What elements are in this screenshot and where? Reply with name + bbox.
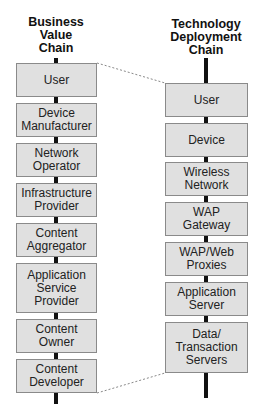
business-box-infrastructure-provider: Infrastructure Provider — [16, 183, 97, 217]
technology-box-application-server: Application Server — [165, 282, 248, 316]
technology-box-wap-gateway: WAP Gateway — [165, 202, 248, 236]
top-connector — [97, 63, 165, 83]
business-box-device-manufacturer: Device Manufacturer — [16, 103, 97, 137]
technology-box-user: User — [165, 83, 248, 117]
bottom-connector — [97, 373, 165, 393]
technology-box-device: Device — [165, 123, 248, 157]
business-box-network-operator: Network Operator — [16, 143, 97, 177]
business-box-content-aggregator: Content Aggregator — [16, 223, 97, 257]
business-box-content-owner: Content Owner — [16, 319, 97, 353]
business-box-user: User — [16, 63, 97, 97]
technology-box-wap-web-proxies: WAP/Web Proxies — [165, 242, 248, 276]
technology-box-wireless-network: Wireless Network — [165, 162, 248, 196]
technology-box-data-transaction-servers: Data/ Transaction Servers — [165, 322, 248, 373]
business-box-content-developer: Content Developer — [16, 359, 97, 393]
business-box-application-service-provider: Application Service Provider — [16, 263, 97, 313]
